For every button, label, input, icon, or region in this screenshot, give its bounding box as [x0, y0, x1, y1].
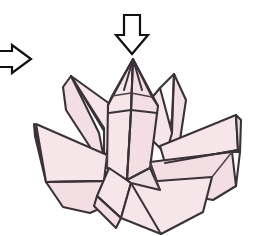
- diagram-canvas: [0, 0, 254, 236]
- petal-front-right: [121, 177, 212, 234]
- push-down-arrow: [116, 15, 148, 54]
- origami-diagram: Origami folding step diagram: [0, 0, 254, 236]
- process-arrow: [0, 45, 31, 73]
